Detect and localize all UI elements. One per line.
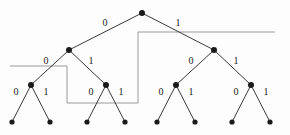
edge-label-0: 0: [234, 87, 239, 97]
tree-node: [211, 47, 217, 53]
binary-tree-figure: 01010101010101: [0, 0, 290, 135]
tree-edge: [31, 50, 69, 85]
leaf-node: [154, 119, 159, 124]
tree-edge: [214, 50, 251, 85]
edge-label-0: 0: [44, 56, 49, 66]
edge-label-1: 1: [119, 87, 124, 97]
tree-edge: [176, 50, 214, 85]
leaf-node: [9, 119, 14, 124]
edge-label-1: 1: [44, 87, 49, 97]
leaf-node: [122, 119, 127, 124]
edge-label-0: 0: [159, 87, 164, 97]
edge-label-1: 1: [234, 56, 239, 66]
tree-node: [173, 82, 179, 88]
edge-label-0: 0: [14, 87, 19, 97]
leaf-node: [192, 119, 197, 124]
edge-label-0: 0: [189, 56, 194, 66]
tree-canvas: [0, 0, 290, 135]
tree-edges: [12, 13, 270, 122]
edge-label-0: 0: [103, 18, 108, 28]
tree-node: [248, 82, 254, 88]
tree-edge: [69, 50, 106, 85]
tree-node: [139, 10, 145, 16]
edge-label-0: 0: [89, 87, 94, 97]
tree-node: [66, 47, 72, 53]
tree-node: [28, 82, 34, 88]
edge-label-1: 1: [189, 87, 194, 97]
leaf-node: [229, 119, 234, 124]
leaf-node: [267, 119, 272, 124]
tree-nodes: [9, 10, 272, 125]
edge-label-1: 1: [264, 87, 269, 97]
edge-label-1: 1: [89, 56, 94, 66]
tree-node: [103, 82, 109, 88]
leaf-node: [84, 119, 89, 124]
edge-label-1: 1: [176, 18, 181, 28]
leaf-node: [47, 119, 52, 124]
